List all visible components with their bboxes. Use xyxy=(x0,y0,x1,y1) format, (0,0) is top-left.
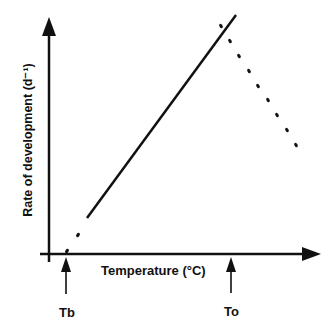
y-axis-label: Rate of development (d⁻¹) xyxy=(20,63,35,217)
decline-dotted-line xyxy=(218,23,298,148)
x-axis xyxy=(40,247,321,261)
tb-arrow-icon xyxy=(61,257,71,294)
y-axis xyxy=(42,17,56,262)
x-axis-arrowhead-icon xyxy=(302,247,321,261)
linear-increase-line xyxy=(87,15,236,218)
development-rate-diagram xyxy=(0,0,333,332)
y-axis-arrowhead-icon xyxy=(42,17,56,36)
tb-label: Tb xyxy=(59,305,75,320)
to-arrow-icon xyxy=(226,257,236,293)
extrapolation-dots xyxy=(64,232,80,254)
x-axis-label: Temperature (°C) xyxy=(101,263,206,278)
to-label: To xyxy=(224,304,239,319)
